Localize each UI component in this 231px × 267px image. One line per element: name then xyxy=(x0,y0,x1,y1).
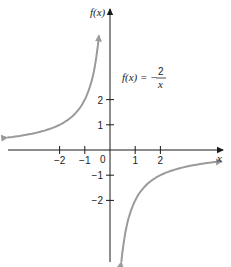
x-tick-label: 2 xyxy=(158,155,164,166)
y-axis-label: f(x) xyxy=(90,6,106,19)
function-graph: −2−112 21−1−2 f(x) x 0 f(x) = − 2 x xyxy=(0,0,231,267)
origin-label: 0 xyxy=(100,154,106,165)
y-tick-label: −2 xyxy=(92,195,104,206)
curve-left-branch xyxy=(7,36,99,138)
y-tick-label: −1 xyxy=(92,170,104,181)
x-axis-label: x xyxy=(216,152,222,164)
y-tick-label: 1 xyxy=(97,120,103,131)
function-label-numerator: 2 xyxy=(158,66,164,77)
x-tick-label: 1 xyxy=(132,155,138,166)
x-tick-label: −2 xyxy=(54,155,66,166)
y-tick-label: 2 xyxy=(97,95,103,106)
x-ticks: −2−112 xyxy=(54,146,164,166)
function-label-lhs: f(x) = − xyxy=(122,71,158,84)
function-label-denominator: x xyxy=(157,78,163,90)
x-tick-label: −1 xyxy=(79,155,91,166)
curve-right-branch xyxy=(121,161,222,262)
